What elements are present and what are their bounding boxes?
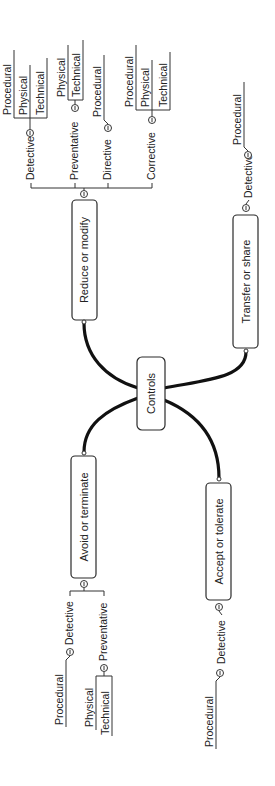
r-corrective-procedural: Procedural [123, 56, 135, 107]
edge-root-avoid [84, 398, 138, 452]
collapse-toggle-accept[interactable] [216, 604, 223, 611]
collapse-toggle-c-detective[interactable] [217, 670, 224, 677]
collapse-toggle-r-preventative[interactable] [72, 105, 79, 112]
a-preventative-physical: Physical [83, 688, 95, 727]
r-detective-physical: Physical [17, 76, 29, 115]
node-controls-label: Controls [145, 373, 157, 414]
r-directive-procedural: Procedural [91, 66, 103, 117]
r-preventative-label: Preventative [68, 121, 80, 180]
collapse-toggle-a-preventative[interactable] [101, 665, 108, 672]
mind-map-canvas: Controls Reduce or modify Detective Proc… [0, 0, 275, 786]
r-preventative-physical: Physical [55, 58, 67, 97]
t-detective-procedural: Procedural [231, 94, 243, 145]
edge-root-accept [164, 400, 219, 478]
connector-dot [217, 477, 221, 481]
r-preventative-technical: Technical [70, 53, 82, 97]
a-detective-label: Detective [63, 601, 75, 645]
collapse-toggle-r-corrective[interactable] [149, 117, 156, 124]
collapse-toggle-a-detective[interactable] [67, 649, 74, 656]
c-detective-label: Detective [215, 620, 227, 664]
bracket-avoid [70, 588, 104, 596]
r-corrective-technical: Technical [157, 63, 169, 107]
bracket-reduce [31, 183, 152, 190]
line-r-directive [104, 55, 108, 124]
t-detective-label: Detective [242, 154, 254, 198]
edge-root-transfer [164, 352, 246, 388]
r-detective-procedural: Procedural [1, 64, 13, 115]
edge-root-reduce [84, 323, 138, 388]
collapse-toggle-reduce[interactable] [81, 191, 88, 198]
node-accept-or-tolerate[interactable]: Accept or tolerate [206, 483, 231, 600]
node-avoid-label: Avoid or terminate [78, 472, 90, 561]
r-detective-label: Detective [24, 136, 36, 180]
node-reduce-label: Reduce or modify [78, 216, 90, 303]
collapse-toggle-t-detective[interactable] [245, 152, 252, 159]
collapse-toggle-transfer[interactable] [243, 205, 250, 212]
c-detective-procedural: Procedural [203, 696, 215, 747]
r-detective-technical: Technical [34, 71, 46, 115]
node-transfer-or-share[interactable]: Transfer or share [233, 215, 258, 348]
a-preventative-label: Preventative [97, 602, 109, 661]
collapse-toggle-r-directive[interactable] [105, 125, 112, 132]
r-corrective-physical: Physical [139, 68, 151, 107]
node-accept-label: Accept or tolerate [213, 498, 225, 584]
node-avoid-or-terminate[interactable]: Avoid or terminate [71, 456, 96, 578]
node-transfer-label: Transfer or share [240, 240, 252, 324]
r-directive-label: Directive [101, 139, 113, 180]
connector-dot [82, 451, 86, 455]
a-preventative-technical: Technical [99, 691, 111, 735]
collapse-toggle-r-detective[interactable] [27, 130, 34, 137]
node-controls[interactable]: Controls [137, 357, 165, 430]
connector-dot [82, 320, 86, 324]
node-reduce-or-modify[interactable]: Reduce or modify [72, 200, 97, 320]
a-detective-procedural: Procedural [53, 674, 65, 725]
connector-dot [244, 349, 248, 353]
collapse-toggle-avoid[interactable] [81, 581, 88, 588]
r-corrective-label: Corrective [145, 132, 157, 180]
